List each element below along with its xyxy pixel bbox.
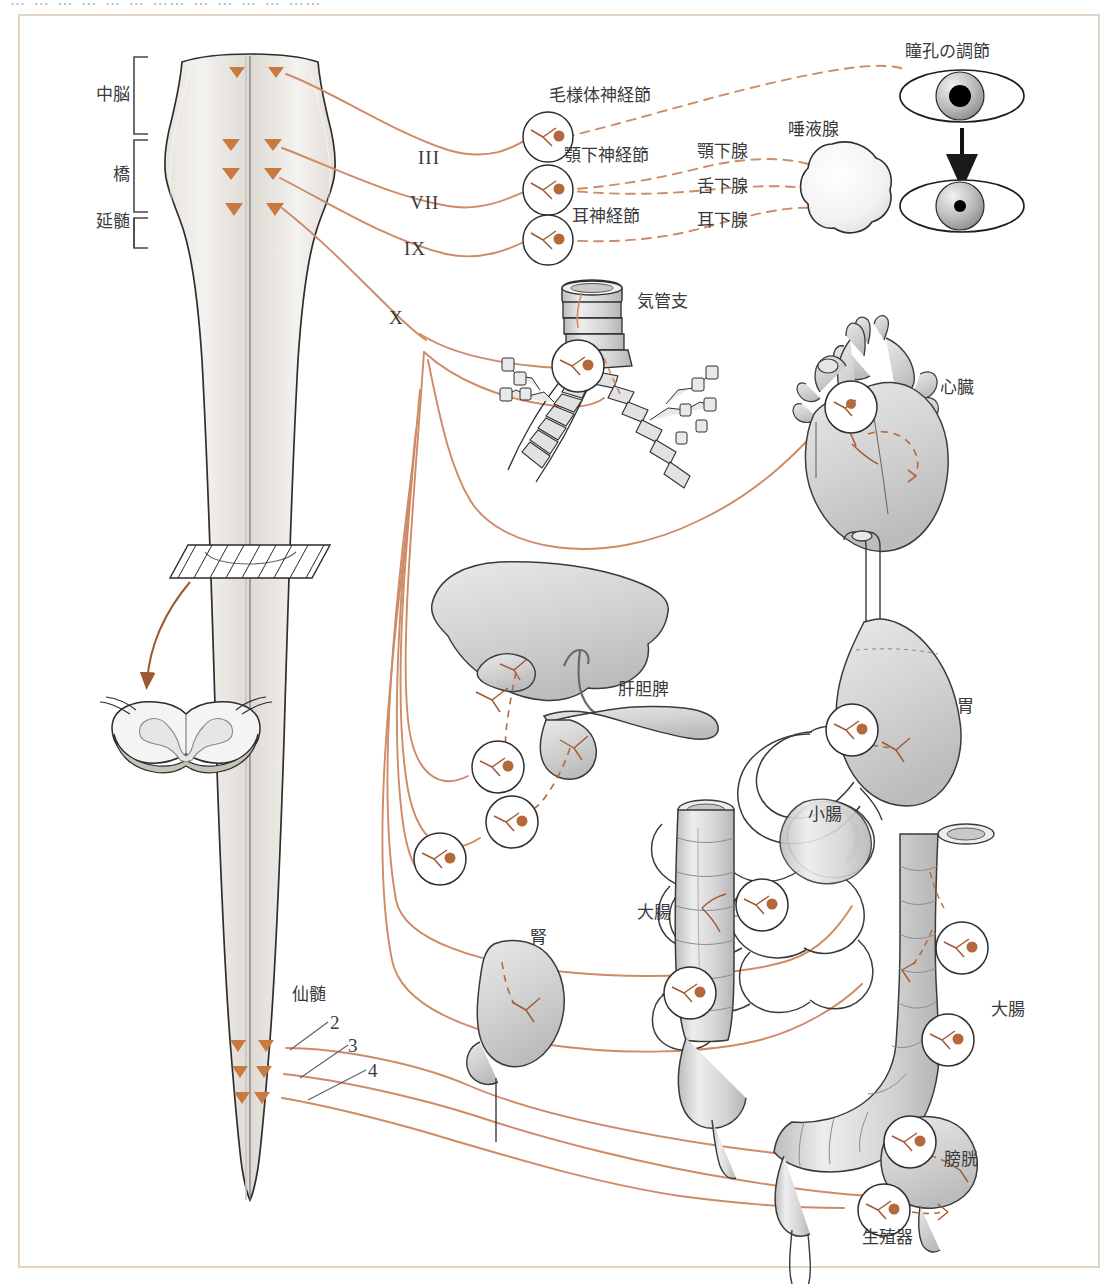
label-cranial-nerve-3: III — [418, 147, 440, 169]
diagram-page: … … … … … … …… … … … … …… — [0, 0, 1117, 1284]
label-submandibular-gland: 顎下腺 — [697, 142, 748, 161]
label-cranial-nerve-7: VII — [410, 192, 439, 214]
label-bronchi: 気管支 — [637, 292, 688, 311]
label-salivary-gland: 唾液腺 — [788, 120, 839, 139]
label-sacral-cord: 仙髄 — [292, 985, 326, 1004]
label-kidney: 腎 — [530, 928, 547, 947]
label-pupil-regulation: 瞳孔の調節 — [905, 42, 990, 61]
anatomy-artwork — [0, 0, 1117, 1284]
label-cranial-nerve-9: IX — [404, 238, 426, 260]
label-sublingual-gland: 舌下腺 — [697, 177, 748, 196]
label-parotid-gland: 耳下腺 — [697, 211, 748, 230]
label-pons: 橋 — [113, 165, 130, 184]
label-sacral-segment-2: 2 — [330, 1012, 340, 1034]
label-large-intestine-right: 大腸 — [991, 1000, 1025, 1019]
label-bladder: 膀胱 — [944, 1150, 978, 1169]
label-medulla: 延髄 — [96, 212, 130, 231]
label-otic-ganglion: 耳神経節 — [572, 207, 640, 226]
label-midbrain: 中脳 — [96, 85, 130, 104]
label-small-intestine: 小腸 — [808, 805, 842, 824]
label-heart: 心臓 — [940, 378, 974, 397]
label-sacral-segment-3: 3 — [348, 1035, 358, 1057]
label-sacral-segment-4: 4 — [368, 1060, 378, 1082]
label-large-intestine-left: 大腸 — [637, 903, 671, 922]
label-cranial-nerve-10: X — [389, 307, 404, 329]
label-hepatobiliary-pancreas: 肝胆脾 — [618, 680, 669, 699]
label-ciliary-ganglion: 毛様体神経節 — [549, 86, 651, 105]
label-genitals: 生殖器 — [862, 1228, 913, 1247]
label-submandibular-ganglion: 顎下神経節 — [564, 146, 649, 165]
label-stomach: 胃 — [957, 697, 974, 716]
